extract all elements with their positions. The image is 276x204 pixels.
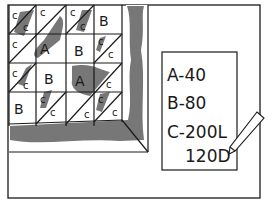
note-line-c: C-200L (167, 122, 227, 142)
svg-text:c: c (40, 7, 46, 18)
svg-text:c: c (50, 107, 56, 118)
svg-text:c: c (112, 107, 118, 118)
note-line-d: 120D (185, 146, 231, 166)
piece-count-note: A-40 B-80 C-200L 120D (162, 52, 237, 170)
svg-text:A: A (75, 73, 85, 89)
svg-text:c: c (23, 22, 29, 33)
svg-text:B: B (44, 71, 54, 87)
svg-text:B: B (74, 43, 84, 59)
note-line-b: B-80 (167, 93, 206, 113)
svg-text:c: c (98, 94, 104, 105)
svg-text:c: c (12, 39, 18, 50)
svg-text:c: c (84, 109, 90, 120)
svg-text:c: c (70, 7, 76, 18)
quilt-illustration: c c c c A c c B B c c c c B A c B c c c … (0, 0, 276, 204)
svg-text:c: c (23, 80, 29, 91)
svg-text:A: A (40, 41, 50, 57)
svg-text:B: B (14, 101, 24, 117)
svg-text:c: c (80, 21, 86, 32)
svg-text:c: c (12, 68, 18, 79)
svg-text:c: c (106, 79, 112, 90)
note-line-a: A-40 (167, 65, 206, 85)
svg-text:c: c (108, 49, 114, 60)
svg-text:c: c (98, 36, 104, 47)
svg-text:c: c (40, 94, 46, 105)
svg-text:B: B (99, 13, 109, 29)
svg-text:c: c (12, 10, 18, 21)
